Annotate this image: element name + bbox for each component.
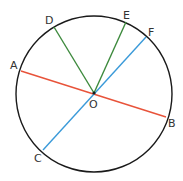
label-d: D (45, 14, 53, 27)
circle-diagram: A B C D E F O (0, 0, 183, 181)
label-b: B (168, 117, 176, 130)
label-f: F (148, 26, 154, 39)
label-e: E (123, 9, 130, 22)
label-a: A (10, 59, 18, 72)
radius-OE (94, 22, 126, 93)
center-point (92, 91, 95, 94)
label-c: C (34, 152, 42, 165)
label-o: O (89, 98, 98, 111)
